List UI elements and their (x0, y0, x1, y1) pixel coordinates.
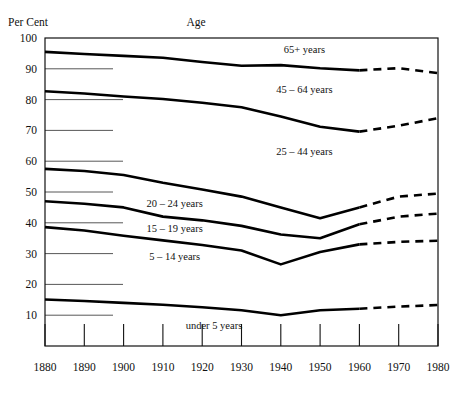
y-tick-label-50: 50 (26, 186, 38, 198)
chart-figure: Per Cent Age 102030405060708090100 18801… (0, 0, 464, 407)
series-line-projected-15-19-years (359, 241, 438, 245)
series-label-15-19-years: 15 – 19 years (147, 223, 203, 234)
legend-title: Age (186, 16, 205, 29)
x-tick-label-1910: 1910 (151, 361, 174, 373)
x-tick-label-1930: 1930 (230, 361, 253, 373)
x-tick-labels: 1880189019001910192019301940195019601970… (34, 361, 450, 373)
series-inline-labels: 65+ years45 – 64 years25 – 44 years20 – … (147, 44, 333, 331)
series-line-solid-25-44-years (45, 169, 359, 218)
series-line-projected-20-24-years (359, 214, 438, 225)
y-tick-label-40: 40 (26, 217, 38, 229)
series-line-solid-under-5-years (45, 299, 359, 315)
population-age-line-chart: Per Cent Age 102030405060708090100 18801… (0, 0, 464, 407)
series-line-projected-65-years (359, 68, 438, 73)
series-lines (45, 52, 438, 315)
x-tick-label-1940: 1940 (269, 361, 292, 373)
y-tick-label-70: 70 (26, 124, 38, 136)
x-tick-label-1970: 1970 (387, 361, 410, 373)
y-tick-labels: 102030405060708090100 (20, 32, 38, 321)
series-label-65+-years: 65+ years (284, 44, 325, 55)
series-label-under-5-years: under 5 years (186, 320, 243, 331)
series-line-solid-45-64-years (45, 91, 359, 131)
series-label-45-64-years: 45 – 64 years (276, 84, 332, 95)
x-tick-label-1920: 1920 (191, 361, 214, 373)
y-gridlines (45, 69, 123, 315)
series-label-20-24-years: 20 – 24 years (147, 198, 203, 209)
y-tick-label-100: 100 (20, 32, 38, 44)
series-label-5-14-years: 5 – 14 years (149, 251, 200, 262)
y-tick-label-80: 80 (26, 94, 38, 106)
x-tick-label-1980: 1980 (427, 361, 450, 373)
series-line-projected-under-5-years (359, 305, 438, 309)
series-line-projected-25-44-years (359, 194, 438, 208)
series-line-projected-45-64-years (359, 118, 438, 132)
y-axis-title: Per Cent (8, 16, 49, 28)
x-tick-label-1900: 1900 (112, 361, 135, 373)
x-tick-label-1960: 1960 (348, 361, 371, 373)
y-tick-label-90: 90 (26, 63, 38, 75)
y-tick-label-10: 10 (26, 309, 38, 321)
y-tick-label-20: 20 (26, 278, 38, 290)
series-label-25-44-years: 25 – 44 years (276, 146, 332, 157)
x-tick-label-1890: 1890 (73, 361, 96, 373)
x-tick-label-1880: 1880 (34, 361, 57, 373)
x-tick-label-1950: 1950 (309, 361, 332, 373)
y-tick-label-60: 60 (26, 155, 38, 167)
y-tick-label-30: 30 (26, 248, 38, 260)
